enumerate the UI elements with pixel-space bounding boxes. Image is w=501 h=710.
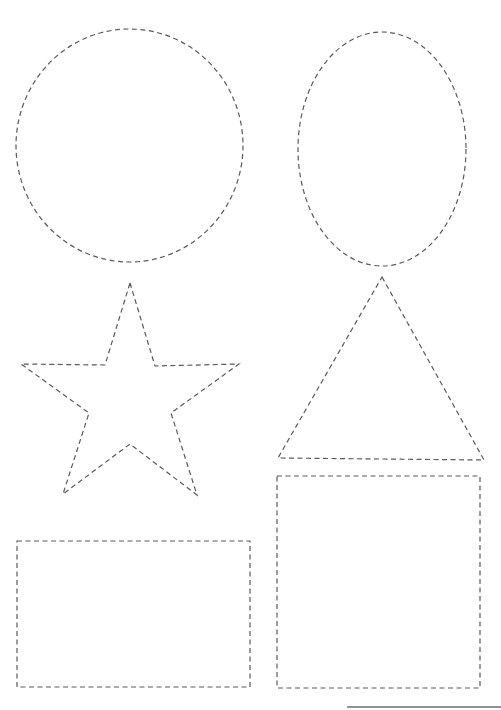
oval-outline xyxy=(298,32,466,266)
star-outline xyxy=(21,283,239,495)
rectangle-outline xyxy=(17,541,250,687)
worksheet-canvas xyxy=(0,0,501,710)
circle-outline xyxy=(16,29,243,262)
triangle-outline xyxy=(278,277,484,460)
square-outline xyxy=(277,476,480,688)
